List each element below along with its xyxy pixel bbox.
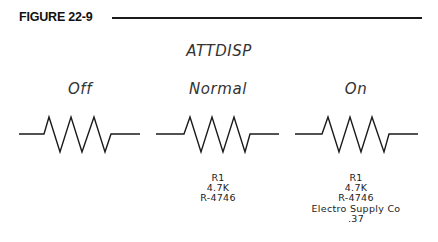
resistor-icon-normal xyxy=(156,117,279,152)
attr-cost: .37 xyxy=(286,214,426,224)
resistor-icon-on xyxy=(295,117,418,152)
attributes-normal: R1 4.7K R-4746 xyxy=(148,173,288,204)
attr-part-number: R-4746 xyxy=(148,193,288,203)
attributes-on: R1 4.7K R-4746 Electro Supply Co .37 xyxy=(286,173,426,224)
resistor-icon-off xyxy=(19,117,140,152)
